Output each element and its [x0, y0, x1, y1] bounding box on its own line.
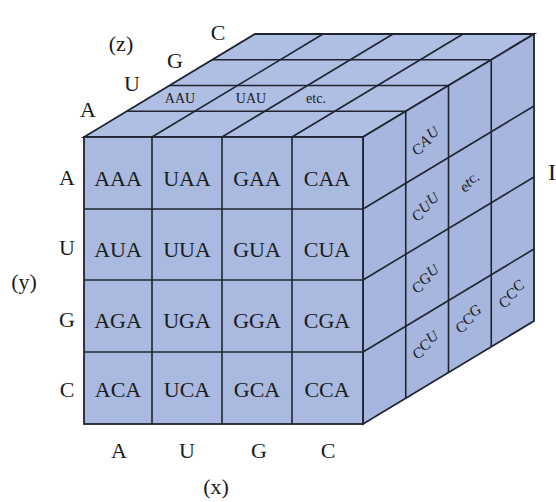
y-axis-letter-c: C: [60, 379, 75, 401]
z-axis-letter-c: C: [211, 22, 226, 44]
z-axis-letter-g: G: [167, 50, 183, 72]
codon-gua: GUA: [233, 239, 281, 261]
cropped-edge-glyph: I: [548, 160, 556, 184]
x-axis-letter-a: A: [111, 440, 127, 462]
z-axis-name: (z): [109, 33, 133, 55]
codon-aaa: AAA: [94, 168, 142, 190]
codon-uau: UAU: [236, 92, 266, 106]
y-axis-letter-u: U: [59, 237, 75, 259]
z-axis-letter-a: A: [80, 99, 96, 121]
top-etc-label: etc.: [306, 92, 326, 106]
x-axis-name: (x): [203, 476, 229, 498]
codon-gga: GGA: [233, 310, 281, 332]
codon-cua: CUA: [304, 239, 350, 261]
y-axis-letter-a: A: [59, 167, 75, 189]
codon-uca: UCA: [164, 379, 210, 401]
y-axis-name: (y): [11, 271, 37, 293]
x-axis-letter-g: G: [251, 440, 267, 462]
codon-aau: AAU: [165, 92, 195, 106]
codon-gca: GCA: [234, 379, 280, 401]
codon-caa: CAA: [304, 168, 350, 190]
codon-uua: UUA: [163, 239, 211, 261]
codon-aua: AUA: [94, 239, 142, 261]
x-axis-letter-c: C: [321, 440, 336, 462]
codon-gaa: GAA: [233, 168, 281, 190]
codon-aga: AGA: [94, 310, 142, 332]
codon-aca: ACA: [95, 379, 141, 401]
codon-cca: CCA: [304, 379, 349, 401]
x-axis-letter-u: U: [179, 440, 195, 462]
codon-cga: CGA: [304, 310, 350, 332]
z-axis-letter-u: U: [124, 73, 140, 95]
y-axis-letter-g: G: [59, 309, 75, 331]
codon-uga: UGA: [163, 310, 211, 332]
codon-uaa: UAA: [163, 168, 211, 190]
